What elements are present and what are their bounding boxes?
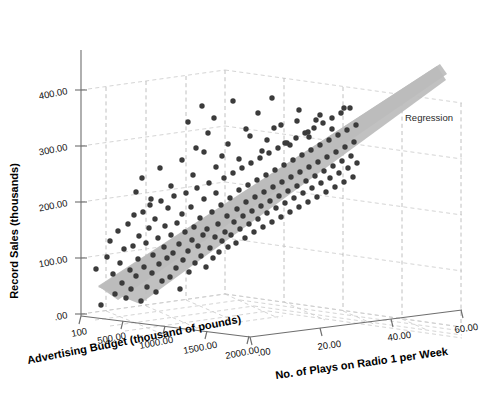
- scatter-point: [119, 280, 124, 285]
- scatter-point: [170, 250, 175, 255]
- scatter-point: [147, 202, 152, 207]
- scatter-point: [141, 264, 146, 269]
- scatter-point: [194, 185, 199, 190]
- scatter-point: [212, 234, 217, 239]
- scatter-point: [324, 154, 329, 159]
- scatter-point: [315, 159, 320, 164]
- scatter-point: [248, 160, 253, 165]
- scatter-point: [115, 228, 120, 233]
- scatter-point: [271, 125, 276, 130]
- scatter-point: [219, 153, 224, 158]
- scatter-point: [333, 149, 338, 154]
- scatter-point: [231, 219, 236, 224]
- scatter-point: [243, 126, 248, 131]
- scatter-point: [188, 204, 193, 209]
- scatter-point: [182, 229, 187, 234]
- scatter-point: [285, 188, 290, 193]
- scatter-point: [136, 233, 141, 238]
- scatter-point: [264, 137, 269, 142]
- scatter-point: [192, 260, 197, 265]
- scatter-point: [282, 200, 287, 205]
- scatter-point: [135, 256, 140, 261]
- scatter-point: [350, 174, 355, 179]
- scatter-point: [218, 202, 223, 207]
- y-axis-tick-labels: 400.00 300.00 200.00 100.00 .00: [38, 85, 69, 322]
- scatter-point: [308, 147, 313, 152]
- z-tick-label: .00: [257, 345, 272, 358]
- scatter-point: [171, 193, 176, 198]
- scatter-point: [198, 253, 203, 258]
- z-tick-label: 60.00: [454, 321, 479, 335]
- scatter-point: [282, 140, 287, 145]
- scatter-point: [125, 221, 130, 226]
- scatter-point: [225, 244, 230, 249]
- scatter-point: [276, 193, 281, 198]
- scatter-point: [278, 122, 283, 127]
- scatter-point: [199, 103, 204, 108]
- scatter-point: [144, 284, 149, 289]
- scatter-point: [303, 178, 308, 183]
- scatter-point: [193, 145, 198, 150]
- scatter-point: [249, 208, 254, 213]
- scatter-point: [205, 130, 210, 135]
- scatter-point: [339, 158, 344, 163]
- scatter-point: [342, 144, 347, 149]
- scatter-point: [296, 107, 301, 112]
- scatter-point: [347, 105, 352, 110]
- scatter-point: [252, 194, 257, 199]
- scatter-point: [139, 175, 144, 180]
- scatter-point: [191, 224, 196, 229]
- scatter-point: [190, 172, 195, 177]
- scatter-point: [204, 226, 209, 231]
- scatter-point: [309, 185, 314, 190]
- scatter-point: [161, 244, 166, 249]
- scatter-point: [128, 286, 133, 291]
- scatter-point: [219, 238, 224, 243]
- scatter-point: [131, 212, 136, 217]
- scatter-point: [254, 177, 259, 182]
- scatter-point: [197, 215, 202, 220]
- scatter-point: [306, 134, 311, 139]
- scatter-point: [237, 226, 242, 231]
- scatter-point: [278, 214, 283, 219]
- scatter-point: [200, 232, 205, 237]
- scatter-point: [275, 145, 280, 150]
- scatter-point: [264, 210, 269, 215]
- scatter-point: [93, 266, 98, 271]
- scatter-point: [222, 229, 227, 234]
- y-axis-title: Record Sales (thousands): [8, 163, 20, 299]
- scatter-point: [168, 232, 173, 237]
- scatter-point: [353, 122, 358, 127]
- scatter-point: [156, 261, 161, 266]
- scatter-point: [117, 260, 122, 265]
- scatter-point: [345, 165, 350, 170]
- scatter-point: [348, 153, 353, 158]
- scatter-point: [287, 209, 292, 214]
- scatter-point: [341, 179, 346, 184]
- scatter-point: [317, 142, 322, 147]
- scatter-point: [121, 246, 126, 251]
- scatter-point: [201, 196, 206, 201]
- scatter-point: [164, 255, 169, 260]
- scatter-point: [180, 257, 185, 262]
- scatter-point: [179, 211, 184, 216]
- scatter-point: [336, 170, 341, 175]
- scatter-point: [247, 133, 252, 138]
- scatter-point: [263, 172, 268, 177]
- scatter-point: [140, 209, 145, 214]
- scatter-point: [259, 148, 264, 153]
- scatter-point: [243, 199, 248, 204]
- scatter-point: [329, 115, 334, 120]
- y-tick-label: .00: [53, 309, 68, 322]
- scatter-point: [299, 152, 304, 157]
- scatter-point: [133, 189, 138, 194]
- scatter-point: [224, 213, 229, 218]
- scatter-point: [165, 205, 170, 210]
- scatter-point: [173, 265, 178, 270]
- scatter-point: [158, 198, 163, 203]
- x-tick-label: 2000.00: [224, 344, 260, 361]
- scatter-point: [326, 137, 331, 142]
- scatter-point: [281, 162, 286, 167]
- scatter-point: [269, 95, 274, 100]
- scatter-point: [127, 267, 132, 272]
